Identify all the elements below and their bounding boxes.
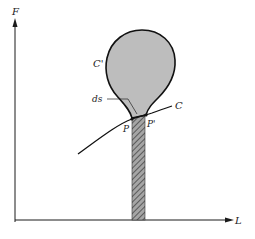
ds-label: ds	[92, 94, 103, 104]
l-axis-label: L	[234, 215, 242, 226]
diagram-canvas: F L C' C ds P P'	[0, 0, 255, 239]
point-p-label: P	[122, 124, 130, 134]
point-p-prime-marker	[144, 113, 147, 116]
f-axis	[13, 18, 18, 222]
l-axis-arrow-icon	[225, 218, 234, 223]
f-axis-arrow-icon	[13, 18, 18, 27]
f-axis-label: F	[11, 6, 20, 17]
region-c-prime	[106, 30, 175, 118]
region-c-prime-label: C'	[93, 58, 103, 69]
point-p-prime-label: P'	[146, 119, 156, 129]
l-axis	[15, 218, 234, 223]
point-p-marker	[130, 117, 133, 120]
hatched-column	[132, 116, 145, 220]
curve-c-label: C	[175, 100, 183, 111]
